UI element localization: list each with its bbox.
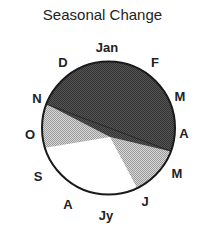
label-feb: F: [151, 55, 159, 70]
seasonal-pie-chart: Jan F M A M J Jy A S O N D: [0, 0, 205, 234]
label-jun: J: [141, 194, 148, 209]
label-aug: A: [63, 197, 73, 212]
label-jan: Jan: [96, 40, 118, 55]
label-nov: N: [32, 91, 41, 106]
label-apr: A: [179, 126, 189, 141]
label-sep: S: [34, 169, 43, 184]
label-jul: Jy: [99, 208, 114, 223]
label-mar: M: [175, 89, 186, 104]
label-oct: O: [25, 127, 35, 142]
label-dec: D: [58, 55, 67, 70]
label-may: M: [172, 166, 183, 181]
